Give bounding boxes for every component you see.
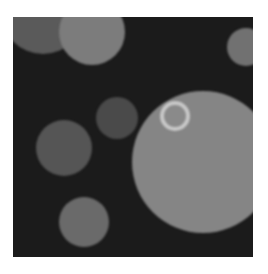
blob-left-medium <box>36 120 92 176</box>
blob-right-edge <box>227 28 253 66</box>
ring-bright-ring <box>160 101 190 131</box>
micrograph-image <box>13 17 253 257</box>
blob-middle-small <box>96 97 138 139</box>
blob-bottom-left <box>59 197 109 247</box>
blob-large-right <box>132 91 253 233</box>
blob-top-center <box>59 17 125 65</box>
